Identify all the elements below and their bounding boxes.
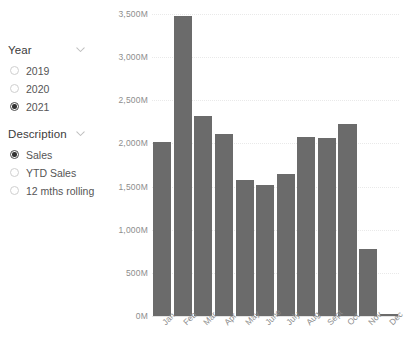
- bar-slot[interactable]: [152, 14, 173, 316]
- slicer-year-header: Year: [8, 42, 104, 57]
- radio-icon[interactable]: [10, 186, 19, 195]
- slicer-option-year-2019[interactable]: 2019: [8, 62, 104, 79]
- bar-series: [152, 14, 399, 316]
- x-axis-slot: Dec: [378, 318, 399, 347]
- plot-area: [152, 14, 399, 316]
- bar-oct[interactable]: [338, 124, 356, 316]
- radio-icon[interactable]: [10, 168, 19, 177]
- x-axis: JanFebMarAprMayJuneJulyAugSeptOctNovDec: [152, 318, 399, 347]
- filter-pane: Year 2019 2020 2021 D: [0, 0, 108, 347]
- slicer-option-label: 2021: [26, 101, 49, 113]
- chevron-down-icon[interactable]: [75, 44, 86, 55]
- bar-sept[interactable]: [318, 138, 336, 316]
- bar-slot[interactable]: [337, 14, 358, 316]
- chevron-down-icon[interactable]: [75, 128, 86, 139]
- radio-selected-icon[interactable]: [10, 150, 19, 159]
- slicer-description-title: Description: [8, 128, 67, 140]
- y-axis: 0M500M1,000M1,500M2,000M2,500M3,000M3,50…: [108, 0, 152, 320]
- y-axis-tick-label: 2,500M: [118, 95, 148, 105]
- bar-mar[interactable]: [194, 116, 212, 316]
- y-axis-tick-label: 1,000M: [118, 225, 148, 235]
- bar-chart-visual[interactable]: 0M500M1,000M1,500M2,000M2,500M3,000M3,50…: [108, 0, 399, 347]
- x-axis-slot: Aug: [296, 318, 317, 347]
- slicer-option-12-mths-rolling[interactable]: 12 mths rolling: [8, 182, 104, 199]
- bar-slot[interactable]: [214, 14, 235, 316]
- bar-slot[interactable]: [193, 14, 214, 316]
- radio-icon[interactable]: [10, 66, 19, 75]
- slicer-year-title: Year: [8, 44, 32, 56]
- x-axis-slot: Feb: [173, 318, 194, 347]
- y-axis-tick-label: 3,000M: [118, 52, 148, 62]
- slicer-option-label: 2019: [26, 65, 49, 77]
- slicer-description: Description Sales YTD Sales 12 mths roll…: [8, 126, 104, 199]
- y-axis-tick-label: 2,000M: [118, 138, 148, 148]
- slicer-option-sales[interactable]: Sales: [8, 146, 104, 163]
- y-axis-tick-label: 500M: [126, 268, 148, 278]
- bar-june[interactable]: [256, 185, 274, 316]
- slicer-option-year-2020[interactable]: 2020: [8, 80, 104, 97]
- bar-apr[interactable]: [215, 134, 233, 316]
- x-axis-slot: July: [275, 318, 296, 347]
- slicer-year: Year 2019 2020 2021: [8, 42, 104, 115]
- x-axis-slot: Oct: [337, 318, 358, 347]
- x-axis-slot: Mar: [193, 318, 214, 347]
- radio-icon[interactable]: [10, 84, 19, 93]
- x-axis-slot: May: [234, 318, 255, 347]
- bar-slot[interactable]: [358, 14, 379, 316]
- bar-slot[interactable]: [275, 14, 296, 316]
- x-axis-slot: Apr: [214, 318, 235, 347]
- slicer-option-label: 12 mths rolling: [26, 185, 94, 197]
- bar-slot[interactable]: [317, 14, 338, 316]
- slicer-option-label: 2020: [26, 83, 49, 95]
- x-axis-slot: Nov: [358, 318, 379, 347]
- bar-slot[interactable]: [255, 14, 276, 316]
- radio-selected-icon[interactable]: [10, 102, 19, 111]
- bar-feb[interactable]: [174, 16, 192, 316]
- slicer-option-year-2021[interactable]: 2021: [8, 98, 104, 115]
- bar-slot[interactable]: [378, 14, 399, 316]
- bar-jan[interactable]: [153, 142, 171, 316]
- slicer-option-label: Sales: [26, 149, 52, 161]
- slicer-option-ytd-sales[interactable]: YTD Sales: [8, 164, 104, 181]
- bar-aug[interactable]: [297, 137, 315, 316]
- bar-slot[interactable]: [234, 14, 255, 316]
- y-axis-tick-label: 1,500M: [118, 182, 148, 192]
- slicer-description-header: Description: [8, 126, 104, 141]
- bar-july[interactable]: [277, 174, 295, 316]
- x-axis-slot: Sept: [317, 318, 338, 347]
- bar-slot[interactable]: [173, 14, 194, 316]
- y-axis-tick-label: 3,500M: [118, 9, 148, 19]
- bar-may[interactable]: [236, 180, 254, 316]
- slicer-option-label: YTD Sales: [26, 167, 76, 179]
- x-axis-slot: June: [255, 318, 276, 347]
- bar-nov[interactable]: [359, 249, 377, 316]
- x-axis-slot: Jan: [152, 318, 173, 347]
- y-axis-tick-label: 0M: [136, 311, 148, 321]
- bar-slot[interactable]: [296, 14, 317, 316]
